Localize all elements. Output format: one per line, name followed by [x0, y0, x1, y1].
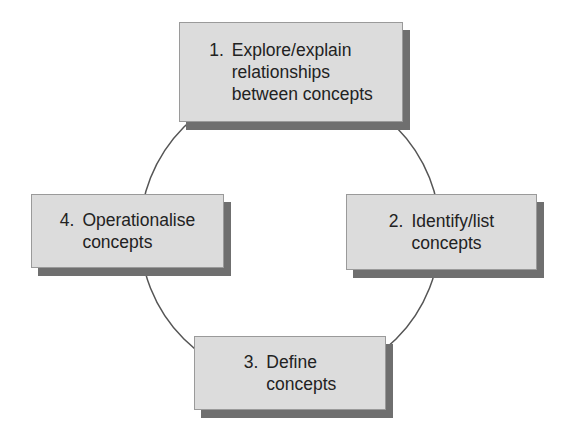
step-text-line: Identify/list	[411, 210, 494, 232]
step-box-4-operationalise-concepts: 4. Operationalise concepts	[31, 194, 224, 268]
step-box-2-identify-concepts: 2. Identify/list concepts	[346, 194, 537, 270]
step-text-line: relationships	[232, 61, 373, 83]
step-text-line: Explore/explain	[232, 39, 373, 61]
step-box-1-explore-relationships: 1. Explore/explain relationships between…	[179, 22, 403, 122]
step-number: 4.	[60, 209, 75, 231]
step-text-line: Operationalise	[82, 209, 195, 231]
step-number: 1.	[209, 39, 224, 61]
step-number: 3.	[244, 351, 259, 373]
step-text-line: concepts	[82, 231, 195, 253]
step-number: 2.	[389, 210, 404, 232]
step-box-3-define-concepts: 3. Define concepts	[194, 336, 386, 410]
step-text-line: concepts	[266, 373, 336, 395]
concept-cycle-diagram: 1. Explore/explain relationships between…	[0, 0, 570, 438]
step-text-line: between concepts	[232, 83, 373, 105]
step-text-line: concepts	[411, 232, 494, 254]
step-text-line: Define	[266, 351, 336, 373]
